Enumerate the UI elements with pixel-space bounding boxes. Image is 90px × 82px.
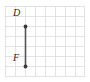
- figure-canvas: D F: [0, 0, 90, 82]
- point-label-D: D: [13, 8, 20, 18]
- point-label-F: F: [13, 53, 19, 63]
- point-marker-F: [24, 65, 28, 69]
- point-marker-D: [24, 25, 28, 29]
